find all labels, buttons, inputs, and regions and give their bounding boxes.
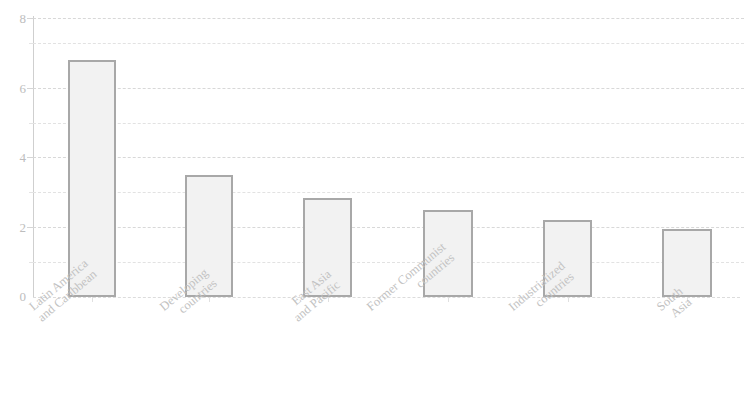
x-tick-1 (92, 297, 93, 302)
x-tick-2 (209, 297, 210, 302)
bar-south-asia[interactable] (662, 229, 712, 297)
bar-chart: 8 6 4 2 0 Latin America and Caribbean De… (0, 0, 744, 419)
x-tick-5 (568, 297, 569, 302)
x-tick-4 (448, 297, 449, 302)
bars-layer (0, 18, 744, 297)
x-axis-labels: Latin America and Caribbean Developing c… (0, 297, 744, 419)
